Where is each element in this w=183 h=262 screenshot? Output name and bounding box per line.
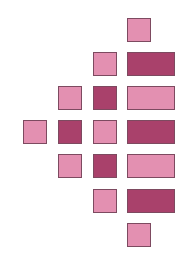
square-block-r5-c2 xyxy=(93,189,117,213)
square-block-r4-c1 xyxy=(58,154,82,178)
bar-block-r1-c3 xyxy=(127,52,175,76)
square-block-r3-c0 xyxy=(23,120,47,144)
bar-block-r2-c3 xyxy=(127,86,175,110)
bar-block-r3-c3 xyxy=(127,120,175,144)
square-block-r1-c2 xyxy=(93,52,117,76)
square-block-r6-c3 xyxy=(127,223,151,247)
square-block-r3-c1 xyxy=(58,120,82,144)
bar-block-r5-c3 xyxy=(127,189,175,213)
square-block-r4-c2 xyxy=(93,154,117,178)
square-block-r3-c2 xyxy=(93,120,117,144)
bar-block-r4-c3 xyxy=(127,154,175,178)
square-block-r2-c1 xyxy=(58,86,82,110)
square-block-r2-c2 xyxy=(93,86,117,110)
square-block-r0-c3 xyxy=(127,18,151,42)
